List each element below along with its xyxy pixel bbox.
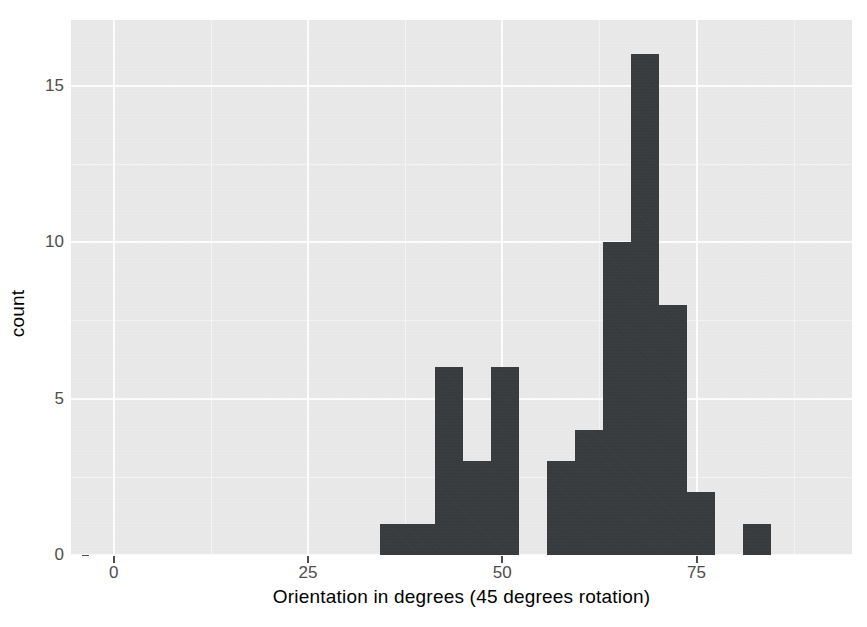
histogram-bar [603, 242, 631, 555]
histogram-bars [71, 20, 852, 555]
x-tick-label: 75 [667, 563, 727, 583]
histogram-bar [407, 524, 435, 555]
x-axis-title: Orientation in degrees (45 degrees rotat… [71, 586, 852, 608]
x-tick-mark [501, 556, 503, 563]
histogram-bar [631, 54, 659, 555]
y-tick-label: 5 [24, 389, 64, 409]
plot-panel [71, 20, 852, 555]
x-tick-mark [113, 556, 115, 563]
histogram-figure: count 051015 Orientation in degrees (45 … [0, 0, 867, 627]
histogram-bar [575, 430, 603, 555]
y-tick-label: 15 [24, 76, 64, 96]
x-tick-mark [696, 556, 698, 563]
histogram-bar [659, 305, 687, 555]
y-axis-ticks: 051015 [18, 0, 64, 627]
histogram-bar [380, 524, 408, 555]
x-tick-label: 25 [278, 563, 338, 583]
x-tick-label: 50 [472, 563, 532, 583]
histogram-bar [491, 367, 519, 555]
y-tick-label: 10 [24, 232, 64, 252]
histogram-bar [547, 461, 575, 555]
histogram-bar [463, 461, 491, 555]
histogram-bar [743, 524, 771, 555]
x-tick-mark [307, 556, 309, 563]
y-tick-label: 0 [24, 545, 64, 565]
histogram-bar [687, 492, 715, 555]
x-tick-label: 0 [84, 563, 144, 583]
histogram-bar [435, 367, 463, 555]
